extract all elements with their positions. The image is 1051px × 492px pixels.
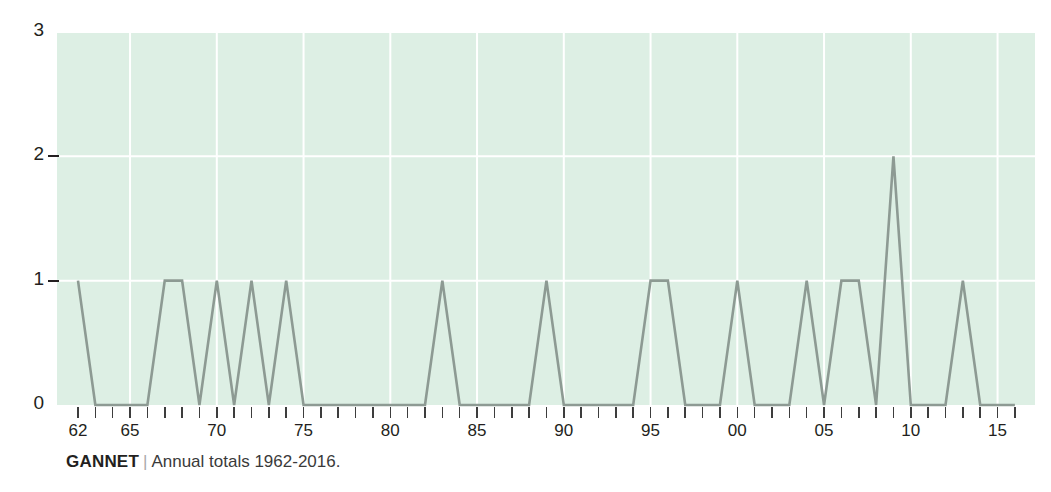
x-axis-tick	[528, 407, 530, 418]
x-axis-tick	[320, 407, 322, 418]
x-axis-tick	[910, 407, 912, 418]
x-axis-tick	[355, 407, 357, 418]
x-axis-tick	[563, 407, 565, 418]
x-axis-tick	[251, 407, 253, 418]
chart-canvas	[0, 0, 1051, 492]
x-axis-tick	[129, 407, 131, 418]
x-axis-tick	[442, 407, 444, 418]
x-axis-tick	[580, 407, 582, 418]
x-axis-tick	[841, 407, 843, 418]
y-axis-label: 0	[22, 392, 44, 414]
x-axis-label: 00	[717, 421, 757, 441]
y-axis-tick	[48, 155, 59, 157]
x-axis-tick	[147, 407, 149, 418]
x-axis-tick	[459, 407, 461, 418]
x-axis-label: 62	[58, 421, 98, 441]
x-axis-label: 65	[110, 421, 150, 441]
x-axis-tick	[858, 407, 860, 418]
x-axis-tick	[806, 407, 808, 418]
x-axis-tick	[997, 407, 999, 418]
x-axis-tick	[598, 407, 600, 418]
x-axis-tick	[199, 407, 201, 418]
caption-description: Annual totals 1962-2016.	[151, 452, 340, 471]
caption-series-name: GANNET	[66, 452, 139, 471]
x-axis-tick	[979, 407, 981, 418]
x-axis-tick	[216, 407, 218, 418]
x-axis-tick	[754, 407, 756, 418]
x-axis-label: 75	[284, 421, 324, 441]
x-axis-label: 05	[804, 421, 844, 441]
gannet-annual-totals-chart: 0123 626570758085909500051015 GANNET|Ann…	[0, 0, 1051, 492]
x-axis-tick	[476, 407, 478, 418]
x-axis-tick	[337, 407, 339, 418]
x-axis-tick	[893, 407, 895, 418]
x-axis-tick	[1014, 407, 1016, 418]
x-axis-tick	[771, 407, 773, 418]
x-axis-tick	[789, 407, 791, 418]
x-axis-tick	[112, 407, 114, 418]
x-axis-tick	[268, 407, 270, 418]
x-axis-tick	[494, 407, 496, 418]
x-axis-tick	[285, 407, 287, 418]
x-axis-tick	[390, 407, 392, 418]
x-axis-tick	[546, 407, 548, 418]
x-axis-tick	[303, 407, 305, 418]
x-axis-label: 15	[978, 421, 1018, 441]
x-axis-tick	[164, 407, 166, 418]
x-axis-tick	[962, 407, 964, 418]
y-axis-label: 2	[22, 143, 44, 165]
x-axis-tick	[511, 407, 513, 418]
x-axis-tick	[684, 407, 686, 418]
x-axis-tick	[181, 407, 183, 418]
x-axis-label: 10	[891, 421, 931, 441]
y-axis-label: 1	[22, 268, 44, 290]
x-axis-tick	[233, 407, 235, 418]
x-axis-tick	[407, 407, 409, 418]
chart-caption: GANNET|Annual totals 1962-2016.	[66, 452, 340, 472]
x-axis-tick	[702, 407, 704, 418]
x-axis-tick	[667, 407, 669, 418]
y-axis-tick	[48, 280, 59, 282]
y-axis-label: 3	[22, 19, 44, 41]
x-axis-tick	[875, 407, 877, 418]
x-axis-tick	[719, 407, 721, 418]
caption-separator: |	[139, 452, 151, 471]
x-axis-tick	[945, 407, 947, 418]
x-axis-label: 80	[370, 421, 410, 441]
x-axis-label: 95	[631, 421, 671, 441]
x-axis-label: 85	[457, 421, 497, 441]
x-axis-tick	[737, 407, 739, 418]
x-axis-tick	[650, 407, 652, 418]
x-axis-tick	[927, 407, 929, 418]
x-axis-tick	[632, 407, 634, 418]
x-axis-label: 70	[197, 421, 237, 441]
x-axis-tick	[77, 407, 79, 418]
x-axis-tick	[424, 407, 426, 418]
x-axis-label: 90	[544, 421, 584, 441]
x-axis-tick	[95, 407, 97, 418]
x-axis-tick	[823, 407, 825, 418]
x-axis-tick	[372, 407, 374, 418]
x-axis-tick	[615, 407, 617, 418]
